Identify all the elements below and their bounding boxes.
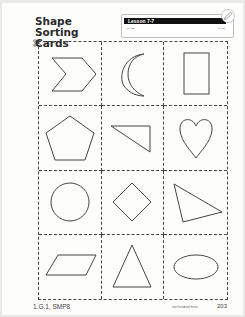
- card-heart[interactable]: [164, 106, 227, 170]
- heart-shape-icon: [170, 110, 222, 166]
- page-number-words: two hundred three: [172, 305, 198, 309]
- pencil-icon: [221, 9, 235, 23]
- name-label: NAME: [127, 27, 134, 30]
- lesson-label: Lesson 7-7: [124, 18, 226, 24]
- lesson-header-box: Lesson 7-7 NAME DATE: [121, 14, 234, 38]
- card-rectangle[interactable]: [164, 42, 227, 106]
- pentagon-shape-icon: [44, 110, 96, 166]
- rhombus-shape-icon: [106, 174, 158, 230]
- card-scalene-triangle[interactable]: [164, 171, 227, 235]
- card-circle[interactable]: [39, 171, 102, 235]
- oval-shape-icon: [170, 239, 222, 295]
- card-right-triangle[interactable]: [102, 106, 165, 170]
- parallelogram-shape-icon: [44, 239, 96, 295]
- card-chevron[interactable]: [39, 42, 102, 106]
- card-parallelogram[interactable]: [39, 235, 102, 299]
- date-label: DATE: [219, 27, 225, 30]
- copyright-notice: [11, 183, 14, 184]
- card-oval[interactable]: [164, 235, 227, 299]
- card-pentagon[interactable]: [39, 106, 102, 170]
- circle-shape-icon: [44, 174, 96, 230]
- standards-label: 1.G.1, SMP8: [33, 303, 70, 310]
- shape-cards-grid: [38, 41, 228, 300]
- chevron-shape-icon: [44, 46, 96, 102]
- title-line-1: Shape Sorting: [35, 16, 105, 38]
- card-crescent[interactable]: [102, 42, 165, 106]
- right-triangle-shape-icon: [106, 110, 158, 166]
- rectangle-shape-icon: [170, 46, 222, 102]
- card-rhombus[interactable]: [102, 171, 165, 235]
- card-isosceles-triangle[interactable]: [102, 235, 165, 299]
- page-number: 203: [217, 303, 227, 309]
- crescent-shape-icon: [106, 46, 158, 102]
- isosceles-triangle-shape-icon: [106, 239, 158, 295]
- scalene-triangle-shape-icon: [170, 174, 222, 230]
